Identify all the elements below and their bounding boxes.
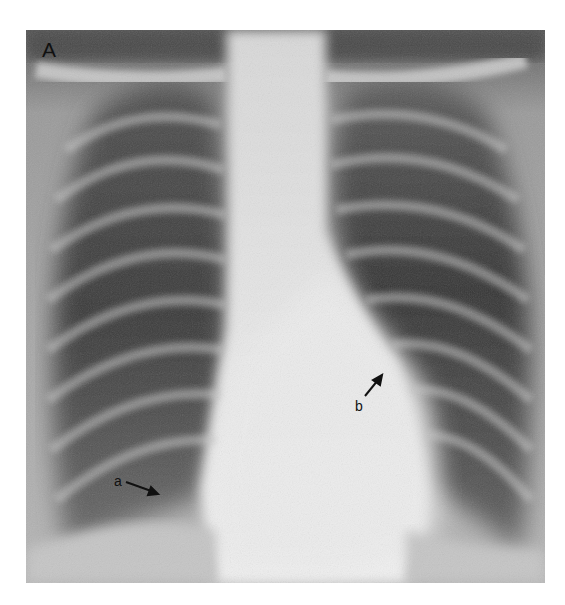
panel-label: A [42, 39, 56, 60]
annotation-label-a: a [114, 474, 122, 488]
annotation-label-b: b [355, 399, 363, 413]
chest-radiograph: A a b [26, 30, 545, 583]
radiograph-image [26, 30, 545, 583]
